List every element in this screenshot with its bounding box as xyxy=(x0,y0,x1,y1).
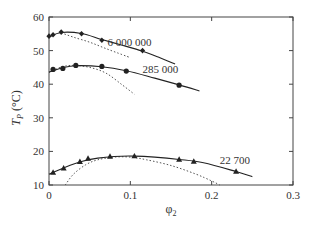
triangle-marker xyxy=(85,155,91,160)
y-tick-label: 20 xyxy=(33,145,45,157)
x-tick-label: 0.1 xyxy=(123,189,137,201)
circle-marker xyxy=(124,68,129,73)
x-tick-label: 0 xyxy=(46,189,52,201)
series-label: 22 700 xyxy=(220,154,251,166)
x-tick-label: 0.2 xyxy=(205,189,219,201)
triangle-marker xyxy=(107,153,113,158)
triangle-marker xyxy=(61,165,67,170)
axes: 10203040506000.10.20.3 xyxy=(33,11,300,201)
circle-marker xyxy=(99,64,104,69)
annotations: 6 000 000285 00022 700 xyxy=(108,36,251,166)
theory-curve xyxy=(65,157,220,185)
x-axis-label: φ2 xyxy=(166,202,177,218)
y-tick-label: 10 xyxy=(33,179,45,191)
diamond-marker xyxy=(46,33,51,39)
circle-marker xyxy=(60,66,65,71)
y-tick-label: 50 xyxy=(33,45,45,57)
circle-marker xyxy=(50,67,55,72)
diamond-marker xyxy=(79,31,84,37)
y-tick-label: 30 xyxy=(33,112,45,124)
line-chart: 10203040506000.10.20.3 6 000 000285 0002… xyxy=(0,0,315,227)
y-tick-label: 40 xyxy=(33,78,45,90)
diamond-marker xyxy=(140,48,145,54)
series-label: 6 000 000 xyxy=(108,36,153,48)
series-label: 285 000 xyxy=(143,63,179,75)
x-tick-label: 0.3 xyxy=(286,189,300,201)
diamond-marker xyxy=(99,37,104,43)
circle-marker xyxy=(177,83,182,88)
diamond-marker xyxy=(50,32,55,38)
chart-container: 10203040506000.10.20.3 6 000 000285 0002… xyxy=(0,0,315,227)
y-axis-label: TP (°C) xyxy=(9,90,25,125)
diamond-marker xyxy=(59,29,64,35)
y-tick-label: 60 xyxy=(33,11,45,23)
circle-marker xyxy=(73,63,78,68)
